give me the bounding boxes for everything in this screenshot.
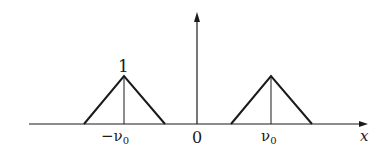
x-axis-label: x [360, 127, 369, 145]
y-axis-arrow-icon [194, 12, 200, 22]
peak-label: 1 [118, 56, 129, 76]
origin-label: 0 [192, 128, 202, 147]
pos-nu-label: ν0 [261, 127, 277, 146]
neg-nu-subscript: 0 [123, 135, 129, 146]
neg-nu-symbol: −ν [101, 127, 123, 145]
pos-nu-symbol: ν [261, 127, 270, 145]
pos-nu-subscript: 0 [270, 135, 276, 146]
diagram-canvas: 1 −ν0 0 ν0 x [0, 0, 385, 152]
neg-nu-label: −ν0 [101, 127, 129, 146]
